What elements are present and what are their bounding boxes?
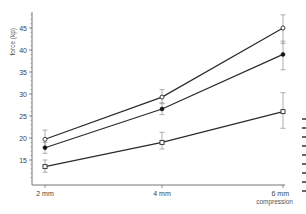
x-axis: 2 mm4 mm6 mm xyxy=(32,185,289,197)
data-point xyxy=(281,26,285,30)
series-square-open xyxy=(43,93,286,173)
data-point xyxy=(43,165,47,169)
y-tick-label: 40 xyxy=(19,47,27,54)
y-tick-label: 30 xyxy=(19,91,27,98)
x-axis-title: compression xyxy=(256,198,293,206)
series-circle-open xyxy=(43,15,286,147)
data-point xyxy=(281,110,285,114)
y-axis: 15202530354045 xyxy=(19,12,32,185)
data-point xyxy=(160,95,164,99)
data-point xyxy=(160,107,164,111)
y-axis-title: force (kp) xyxy=(9,28,17,55)
x-tick-label: 2 mm xyxy=(36,190,54,197)
data-point xyxy=(43,137,47,141)
y-tick-label: 35 xyxy=(19,69,27,76)
series-layer xyxy=(43,15,286,173)
y-tick-label: 15 xyxy=(19,157,27,164)
data-point xyxy=(281,52,285,56)
line-chart: 15202530354045 2 mm4 mm6 mm force (kp) c… xyxy=(0,0,306,214)
data-point xyxy=(43,146,47,150)
data-point xyxy=(160,140,164,144)
x-tick-label: 4 mm xyxy=(153,190,171,197)
y-tick-label: 20 xyxy=(19,135,27,142)
clipped-edge-text xyxy=(302,118,306,198)
x-tick-label: 6 mm xyxy=(272,190,290,197)
y-tick-label: 25 xyxy=(19,113,27,120)
y-tick-label: 45 xyxy=(19,25,27,32)
